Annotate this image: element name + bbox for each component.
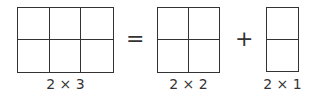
label-2x2: 2 × 2 (157, 76, 220, 92)
grid-2x1 (266, 7, 299, 72)
grid-cell (267, 8, 298, 40)
grid-cell (18, 8, 50, 40)
grid-2x3 (17, 7, 114, 73)
grid-cell (189, 8, 220, 40)
grid-cell (158, 40, 189, 72)
equals-sign: = (126, 26, 144, 51)
label-2x1: 2 × 1 (259, 76, 306, 92)
grid-cell (81, 40, 113, 72)
grid-cell (50, 8, 82, 40)
grid-2x2 (157, 7, 220, 73)
grid-cell (18, 40, 50, 72)
label-2x3: 2 × 3 (17, 76, 114, 92)
grid-cell (189, 40, 220, 72)
grid-cell (50, 40, 82, 72)
plus-sign: + (235, 26, 253, 51)
grid-cell (81, 8, 113, 40)
grid-cell (267, 40, 298, 72)
grid-cell (158, 8, 189, 40)
